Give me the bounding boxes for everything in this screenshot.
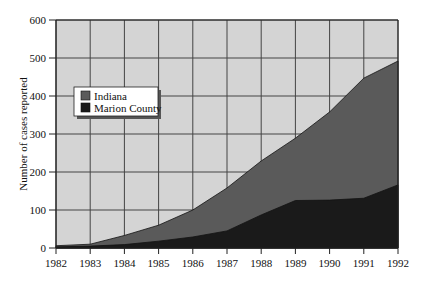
legend-label-indiana: Indiana bbox=[94, 90, 127, 102]
y-tick-label: 100 bbox=[30, 204, 47, 216]
x-axis-ticks: 1982198319841985198619871988198919901991… bbox=[45, 248, 409, 269]
legend-swatch-indiana bbox=[81, 91, 90, 100]
x-tick-label: 1992 bbox=[387, 257, 409, 269]
x-tick-label: 1991 bbox=[353, 257, 375, 269]
y-tick-label: 600 bbox=[30, 14, 47, 26]
x-tick-label: 1987 bbox=[216, 257, 239, 269]
x-tick-label: 1982 bbox=[45, 257, 67, 269]
y-axis-title: Number of cases reported bbox=[17, 77, 29, 191]
y-axis-ticks: 0100200300400500600 bbox=[30, 14, 57, 254]
legend-label-marion-county: Marion County bbox=[94, 102, 162, 114]
x-tick-label: 1986 bbox=[182, 257, 205, 269]
x-tick-label: 1990 bbox=[319, 257, 342, 269]
x-tick-label: 1984 bbox=[113, 257, 136, 269]
x-tick-label: 1983 bbox=[79, 257, 102, 269]
y-tick-label: 0 bbox=[41, 242, 47, 254]
y-tick-label: 400 bbox=[30, 90, 47, 102]
x-tick-label: 1989 bbox=[284, 257, 307, 269]
x-tick-label: 1985 bbox=[148, 257, 171, 269]
x-tick-label: 1988 bbox=[250, 257, 273, 269]
y-tick-label: 500 bbox=[30, 52, 47, 64]
area-chart: 0100200300400500600 19821983198419851986… bbox=[0, 0, 421, 285]
y-tick-label: 200 bbox=[30, 166, 47, 178]
legend-swatch-marion-county bbox=[81, 103, 90, 112]
y-tick-label: 300 bbox=[30, 128, 47, 140]
legend: Indiana Marion County bbox=[74, 87, 162, 119]
